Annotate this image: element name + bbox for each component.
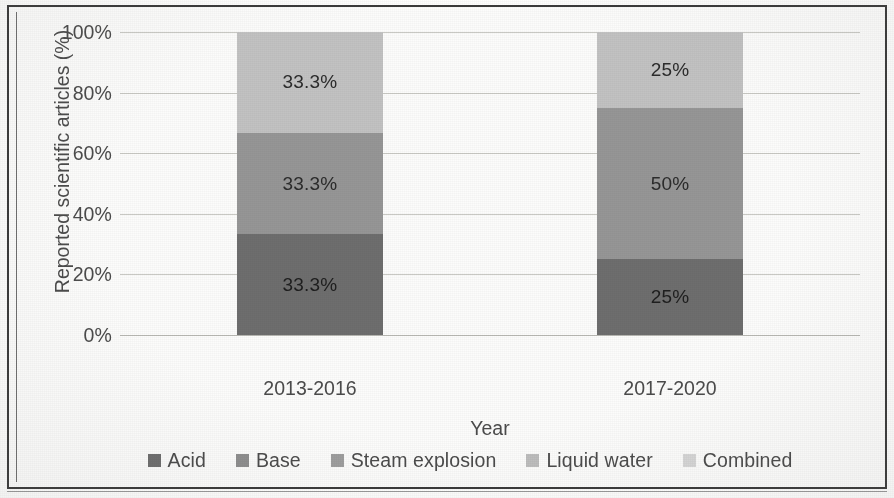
gridline-20 — [120, 274, 860, 275]
gridline-80 — [120, 93, 860, 94]
legend-swatch-icon — [526, 454, 539, 467]
y-axis-tick-labels: 100% 80% 60% 40% 20% 0% — [8, 32, 112, 335]
bar-segment-label: 25% — [651, 59, 690, 81]
legend-item-combined[interactable]: Combined — [683, 449, 793, 472]
gridline-0 — [120, 335, 860, 336]
bar-segment-label: 25% — [651, 286, 690, 308]
bar-segment-label: 33.3% — [283, 173, 338, 195]
legend-label: Steam explosion — [351, 449, 497, 472]
bar-segment-label: 50% — [651, 173, 690, 195]
bar-segment-acid[interactable]: 33.3% — [237, 234, 383, 335]
gridline-60 — [120, 153, 860, 154]
y-tick-80: 80% — [12, 81, 112, 104]
legend-item-steam-explosion[interactable]: Steam explosion — [331, 449, 497, 472]
x-tick-2017-2020: 2017-2020 — [597, 377, 743, 400]
y-tick-0: 0% — [12, 324, 112, 347]
bar-2017-2020[interactable]: 25% 50% 25% — [597, 32, 743, 335]
x-axis-title: Year — [120, 417, 860, 440]
legend-swatch-icon — [683, 454, 696, 467]
legend-label: Liquid water — [546, 449, 652, 472]
legend-swatch-icon — [331, 454, 344, 467]
legend-label: Base — [256, 449, 301, 472]
y-tick-40: 40% — [12, 202, 112, 225]
gridline-100 — [120, 32, 860, 33]
bar-segment-base[interactable]: 33.3% — [237, 133, 383, 234]
y-tick-20: 20% — [12, 263, 112, 286]
y-tick-60: 60% — [12, 142, 112, 165]
bar-segment-label: 33.3% — [283, 71, 338, 93]
legend-swatch-icon — [236, 454, 249, 467]
legend-swatch-icon — [148, 454, 161, 467]
chart-legend: Acid Base Steam explosion Liquid water C… — [120, 449, 820, 472]
x-tick-2013-2016: 2013-2016 — [237, 377, 383, 400]
legend-item-acid[interactable]: Acid — [148, 449, 206, 472]
figure-bottom-rule — [7, 491, 887, 492]
gridline-40 — [120, 214, 860, 215]
bar-2013-2016[interactable]: 33.3% 33.3% 33.3% — [237, 32, 383, 335]
legend-label: Combined — [703, 449, 793, 472]
bar-segment-steam-explosion[interactable]: 33.3% — [237, 32, 383, 133]
legend-item-base[interactable]: Base — [236, 449, 301, 472]
bar-segment-acid[interactable]: 25% — [597, 259, 743, 335]
legend-label: Acid — [168, 449, 206, 472]
bar-segment-label: 33.3% — [283, 274, 338, 296]
bar-segment-base[interactable]: 50% — [597, 108, 743, 260]
chart-figure: Reported scientific articles (%) 100% 80… — [0, 0, 894, 498]
plot-area: 33.3% 33.3% 33.3% 25% 50% 25% 2013-2016 … — [120, 32, 860, 335]
legend-item-liquid-water[interactable]: Liquid water — [526, 449, 652, 472]
bar-segment-steam-explosion[interactable]: 25% — [597, 32, 743, 108]
y-tick-100: 100% — [12, 21, 112, 44]
